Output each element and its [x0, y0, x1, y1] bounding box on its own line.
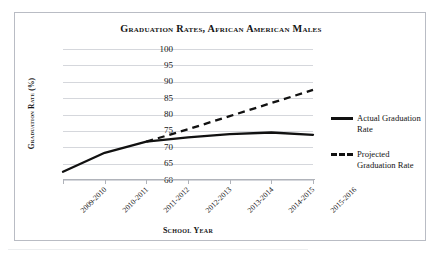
legend-label: Actual Graduation Rate	[357, 113, 421, 134]
y-tick-label-85: 85	[133, 94, 173, 103]
x-tick-label-2010-2011: 2010-2011	[120, 185, 149, 214]
chart-legend: Actual Graduation RateProjected Graduati…	[331, 113, 427, 185]
x-axis-line	[63, 179, 315, 180]
x-tick-label-2014-2015: 2014-2015	[287, 185, 317, 215]
x-tick-2011-2012	[146, 180, 147, 184]
series-layer	[63, 49, 313, 180]
x-tick-2012-2013	[188, 180, 189, 184]
y-tick-label-90: 90	[133, 77, 173, 86]
y-tick-label-70: 70	[133, 143, 173, 152]
plot-area	[63, 49, 313, 180]
x-tick-label-2015-2016: 2015-2016	[329, 185, 359, 215]
x-tick-2015-2016	[313, 180, 314, 184]
x-tick-2009-2010	[63, 180, 64, 184]
y-tick-label-75: 75	[133, 126, 173, 135]
y-tick-label-65: 65	[133, 159, 173, 168]
x-tick-2010-2011	[105, 180, 106, 184]
graduation-rates-chart-figure: Graduation Rates, African American Males…	[0, 0, 441, 257]
x-tick-label-2011-2012: 2011-2012	[162, 185, 191, 214]
chart-frame: Graduation Rates, African American Males…	[14, 12, 426, 241]
x-tick-label-2012-2013: 2012-2013	[204, 185, 234, 215]
legend-label: Projected Graduation Rate	[357, 149, 414, 170]
series-line-actual-graduation-rate	[63, 133, 313, 172]
legend-swatch-solid-line-icon	[331, 117, 353, 120]
x-axis-title: School Year	[63, 226, 313, 235]
y-axis-title: Graduation Rate (%)	[27, 54, 36, 174]
x-tick-2013-2014	[230, 180, 231, 184]
legend-entry-projected: Projected Graduation Rate	[331, 149, 427, 171]
legend-entry-actual: Actual Graduation Rate	[331, 113, 427, 135]
x-tick-label-2013-2014: 2013-2014	[245, 185, 275, 215]
page-edge-artifact	[8, 249, 308, 250]
y-tick-label-80: 80	[133, 110, 173, 119]
y-tick-label-60: 60	[133, 176, 173, 185]
x-tick-2014-2015	[271, 180, 272, 184]
y-tick-label-100: 100	[133, 45, 173, 54]
x-tick-label-2009-2010: 2009-2010	[79, 185, 109, 215]
chart-title: Graduation Rates, African American Males	[15, 23, 427, 34]
y-tick-label-95: 95	[133, 61, 173, 70]
legend-swatch-dashed-line-icon	[331, 153, 353, 156]
